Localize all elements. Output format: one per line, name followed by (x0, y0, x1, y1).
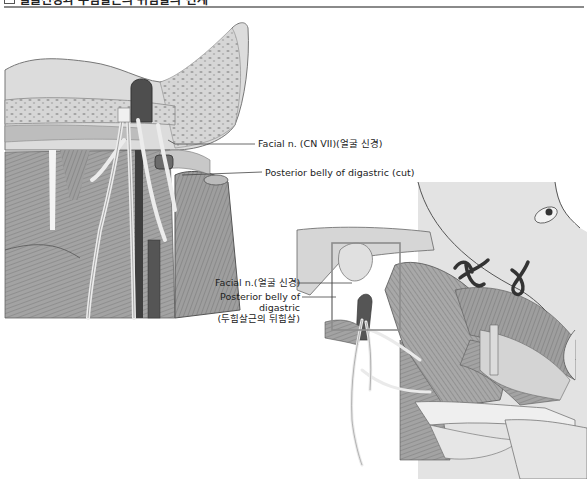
right-illustration (297, 182, 587, 479)
label-posterior-belly-right-1: Posterior belly of (200, 291, 300, 302)
left-illustration (5, 23, 262, 318)
label-facial-nerve-left: Facial n. (CN VII)(얼굴 신경) (258, 138, 383, 149)
label-posterior-belly-right-3: (두힘살근의 뒤힘살) (190, 313, 300, 324)
label-posterior-belly-right-2: digastric (200, 302, 300, 313)
anatomy-illustrations (0, 0, 587, 479)
label-posterior-belly-left: Posterior belly of digastric (cut) (265, 167, 414, 178)
label-facial-nerve-right: Facial n.(얼굴 신경) (215, 277, 295, 288)
